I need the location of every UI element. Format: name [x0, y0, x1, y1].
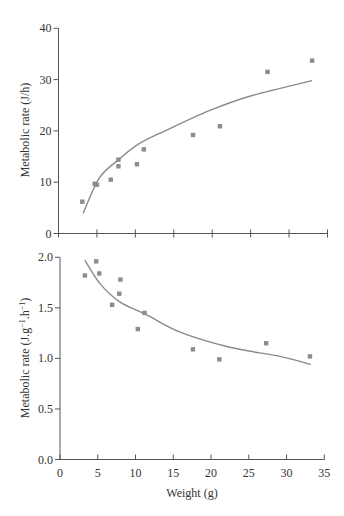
data-point-square [116, 157, 120, 161]
data-point-square [110, 303, 114, 307]
data-point-square [218, 124, 222, 128]
data-point-square [264, 341, 268, 345]
x-axis-title: Weight (g) [166, 486, 217, 500]
data-point-square [217, 357, 221, 361]
x-tick-label: 0 [57, 466, 63, 480]
y-tick-label: 2.0 [38, 250, 53, 264]
y-tick-label: 20 [40, 124, 52, 138]
x-tick-label: 10 [130, 466, 142, 480]
x-tick-label: 15 [167, 466, 179, 480]
bottom-panel-mass-specific-rate: 0.00.51.01.52.005101520253035 Metabolic … [18, 250, 330, 500]
top-panel-axes: 010203040 [40, 21, 328, 240]
fitted-curve-line [85, 260, 311, 364]
y-tick-label: 0.0 [38, 453, 53, 467]
y-tick-label: 0 [46, 227, 52, 241]
data-point-square [142, 147, 146, 151]
x-tick-label: 25 [243, 466, 255, 480]
data-point-square [191, 347, 195, 351]
data-point-square [135, 162, 139, 166]
x-tick-label: 20 [205, 466, 217, 480]
data-point-square [80, 199, 84, 203]
data-point-square [83, 273, 87, 277]
data-point-square [136, 327, 140, 331]
data-point-square [191, 133, 195, 137]
bottom-panel-axes: 0.00.51.01.52.005101520253035 [38, 250, 330, 479]
data-point-square [118, 277, 122, 281]
top-panel-data-points [80, 58, 314, 203]
data-point-square [265, 70, 269, 74]
data-point-square [308, 354, 312, 358]
data-point-square [94, 259, 98, 263]
data-point-square [142, 311, 146, 315]
y-tick-label: 10 [40, 175, 52, 189]
y-tick-label: 0.5 [38, 402, 53, 416]
data-point-square [310, 58, 314, 62]
top-panel-fitted-curve [83, 81, 312, 214]
fitted-curve-line [83, 81, 312, 214]
data-point-square [95, 183, 99, 187]
x-tick-label: 5 [95, 466, 101, 480]
y-tick-label: 1.0 [38, 351, 53, 365]
top-panel-y-axis-title: Metabolic rate (J/h) [18, 83, 32, 178]
metabolic-rate-figure: 010203040 Metabolic rate (J/h) 0.00.51.0… [0, 0, 344, 516]
data-point-square [109, 177, 113, 181]
y-tick-label: 1.5 [38, 301, 53, 315]
data-point-square [116, 164, 120, 168]
x-tick-label: 35 [318, 466, 330, 480]
data-point-square [97, 271, 101, 275]
bottom-panel-data-points [83, 259, 312, 361]
data-point-square [117, 291, 121, 295]
top-panel-metabolic-rate: 010203040 Metabolic rate (J/h) [18, 21, 328, 240]
bottom-panel-y-axis-title: Metabolic rate (J.g−1.h−1) [18, 298, 32, 418]
y-tick-label: 40 [40, 21, 52, 35]
x-tick-label: 30 [281, 466, 293, 480]
y-tick-label: 30 [40, 73, 52, 87]
bottom-panel-fitted-curve [85, 260, 311, 364]
